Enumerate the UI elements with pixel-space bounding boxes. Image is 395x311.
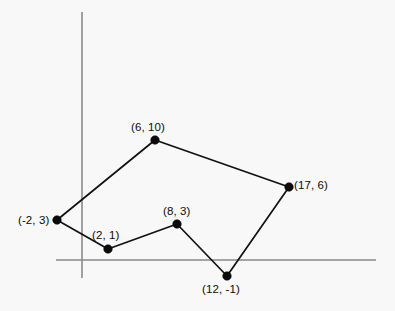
vertex-point[interactable] [151,136,160,145]
vertex-point[interactable] [53,216,62,225]
polygon-edge [177,224,227,276]
coordinate-plane-figure: (-2, 3)(6, 10)(17, 6)(12, -1)(8, 3)(2, 1… [0,0,395,311]
vertex-point[interactable] [223,272,232,281]
vertex-point[interactable] [285,183,294,192]
point-label: (2, 1) [92,229,119,242]
polygon-edge [57,140,155,220]
point-label: (8, 3) [163,205,190,218]
polygon-edge [155,140,289,187]
point-label: (12, -1) [202,283,240,296]
point-label: (17, 6) [294,179,328,192]
vertex-point[interactable] [104,245,113,254]
point-label: (6, 10) [131,121,165,134]
polygon-edge [227,187,289,276]
plot-canvas [0,0,395,311]
vertex-point[interactable] [173,220,182,229]
point-label: (-2, 3) [18,214,49,227]
